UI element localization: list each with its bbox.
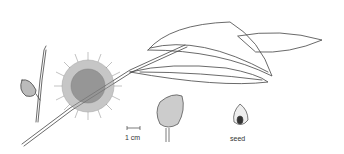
scale-bar	[127, 126, 140, 130]
fruit	[157, 95, 183, 142]
botanical-illustration	[0, 0, 344, 154]
seed	[234, 104, 248, 125]
leaf-lower	[130, 66, 268, 84]
leaf-right	[238, 33, 322, 52]
left-twig	[36, 46, 46, 122]
scale-label: 1 cm	[125, 134, 140, 141]
bud	[21, 80, 36, 97]
seed-label: seed	[230, 135, 245, 142]
